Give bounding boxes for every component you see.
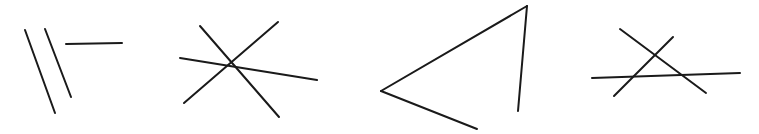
triangle-upper-edge-line	[381, 6, 527, 91]
group-x-cross-with-horizontal	[592, 29, 740, 96]
group-three-line-asterisk-star	[180, 22, 317, 117]
x-stroke-nw-se-line	[620, 29, 706, 93]
long-horizontal-line	[592, 73, 740, 78]
triangle-right-edge-line	[518, 6, 527, 111]
star-stroke-w-e-line	[180, 58, 317, 80]
line-drawing-svg	[0, 0, 759, 134]
group-open-triangle	[381, 6, 527, 129]
right-diagonal-line	[45, 29, 71, 97]
drawing-canvas	[0, 0, 759, 134]
triangle-lower-edge-line	[381, 91, 477, 129]
short-horizontal-line	[66, 43, 122, 44]
group-two-parallel-diagonals-and-horizontal	[25, 29, 122, 113]
